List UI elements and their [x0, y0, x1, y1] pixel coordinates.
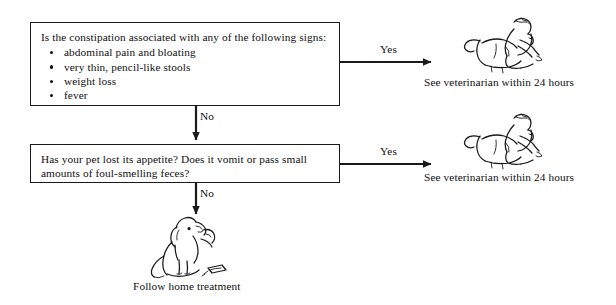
bullet-icon: [50, 65, 53, 68]
dog-eating-from-bowl-icon: [146, 212, 242, 280]
decision-box-signs: Is the constipation associated with any …: [30, 22, 340, 106]
vet-examining-dog-icon: [458, 112, 550, 170]
edge-label-yes-1: Yes: [380, 43, 397, 55]
list-item-label: weight loss: [64, 75, 116, 87]
decision-box-appetite-line2: amounts of foul-smelling feces?: [41, 166, 331, 180]
outcome-caption-home: Follow home treatment: [133, 280, 241, 293]
outcome-caption-vet-2: See veterinarian within 24 hours: [424, 171, 574, 184]
list-item-label: very thin, pencil-like stools: [64, 61, 191, 73]
signs-list: abdominal pain and bloating very thin, p…: [41, 45, 331, 102]
list-item: fever: [41, 88, 331, 102]
list-item: weight loss: [41, 74, 331, 88]
decision-box-signs-question: Is the constipation associated with any …: [41, 30, 331, 44]
bullet-icon: [50, 80, 53, 83]
edge-label-no-2: No: [200, 187, 214, 199]
list-item-label: abdominal pain and bloating: [64, 46, 196, 58]
decision-box-appetite-line1: Has your pet lost its appetite? Does it …: [41, 152, 331, 166]
bullet-icon: [50, 51, 53, 54]
edge-label-yes-2: Yes: [380, 145, 397, 157]
list-item-label: fever: [64, 89, 88, 101]
bullet-icon: [50, 94, 53, 97]
list-item: abdominal pain and bloating: [41, 45, 331, 59]
decision-box-appetite: Has your pet lost its appetite? Does it …: [30, 144, 340, 183]
vet-examining-dog-icon: [458, 16, 550, 74]
list-item: very thin, pencil-like stools: [41, 60, 331, 74]
outcome-caption-vet-1: See veterinarian within 24 hours: [424, 76, 574, 89]
edge-label-no-1: No: [200, 110, 214, 122]
